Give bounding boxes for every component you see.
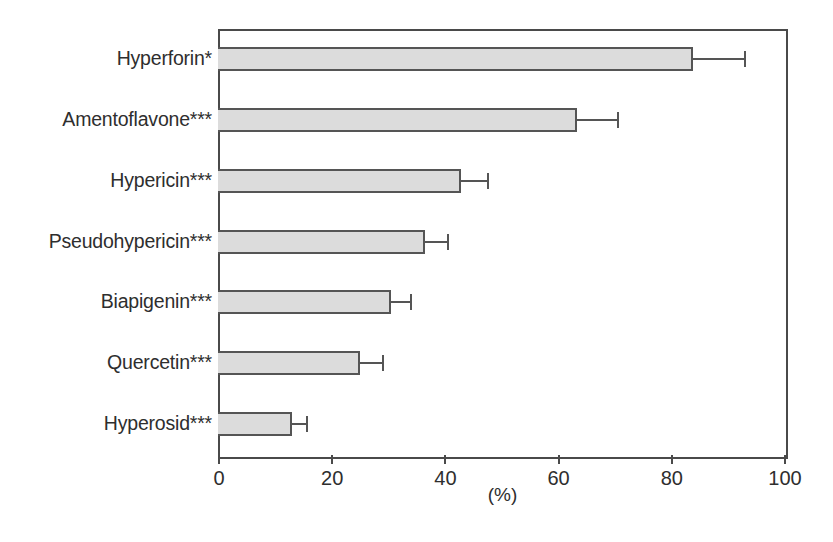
x-tick-3 <box>558 455 560 464</box>
error-bar-cap <box>487 173 489 189</box>
bars-layer <box>218 29 784 455</box>
error-bar-cap <box>617 112 619 128</box>
error-bar-line <box>425 241 448 243</box>
x-tick-0 <box>218 455 220 464</box>
bar <box>218 351 360 375</box>
x-tick-1 <box>331 455 333 464</box>
error-bar-cap <box>382 355 384 371</box>
category-label-4: Biapigenin*** <box>0 290 212 313</box>
x-axis-title: (%) <box>0 484 833 506</box>
x-tick-5 <box>784 455 786 464</box>
bar <box>218 47 693 71</box>
category-axis-labels: Hyperforin*Amentoflavone***Hypericin***P… <box>0 29 212 455</box>
bar <box>218 230 425 254</box>
bar <box>218 412 292 436</box>
category-label-3: Pseudohypericin*** <box>0 230 212 253</box>
bar <box>218 290 391 314</box>
error-bar-line <box>292 423 306 425</box>
x-axis-title-text: (%) <box>488 484 518 505</box>
error-bar-cap <box>447 234 449 250</box>
error-bar-line <box>360 362 383 364</box>
error-bar-line <box>391 301 411 303</box>
category-label-2: Hypericin*** <box>0 169 212 192</box>
category-label-5: Quercetin*** <box>0 351 212 374</box>
bar-chart-figure: Hyperforin*Amentoflavone***Hypericin***P… <box>0 0 833 542</box>
category-label-1: Amentoflavone*** <box>0 108 212 131</box>
error-bar-line <box>693 58 744 60</box>
error-bar-line <box>461 180 486 182</box>
bar <box>218 169 461 193</box>
x-tick-2 <box>444 455 446 464</box>
error-bar-line <box>577 119 617 121</box>
category-label-0: Hyperforin* <box>0 47 212 70</box>
x-tick-4 <box>671 455 673 464</box>
category-label-6: Hyperosid*** <box>0 412 212 435</box>
bar <box>218 108 577 132</box>
error-bar-cap <box>744 51 746 67</box>
error-bar-cap <box>410 294 412 310</box>
error-bar-cap <box>306 416 308 432</box>
